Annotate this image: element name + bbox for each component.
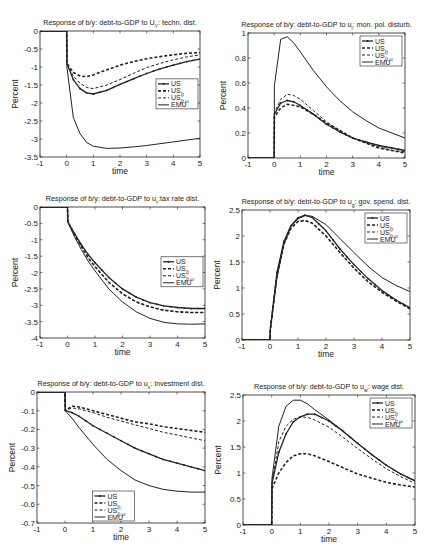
series-marker <box>381 290 383 292</box>
y-axis-label: Percent <box>218 80 228 110</box>
y-tick-label: -3 <box>31 135 39 144</box>
series-marker <box>108 277 110 279</box>
series-marker <box>192 59 194 61</box>
x-tick-label: 1 <box>296 342 301 351</box>
y-tick-label: 0 <box>237 521 242 530</box>
series-marker <box>332 239 334 241</box>
y-tick-label: -3.5 <box>24 318 38 327</box>
legend-label: EMU <box>375 59 391 66</box>
series-marker <box>339 248 341 250</box>
y-tick-label: 2 <box>236 232 241 241</box>
y-axis-label: Percent <box>10 257 20 287</box>
series-marker <box>163 305 165 307</box>
series-line-us <box>37 392 205 471</box>
series-marker <box>190 308 192 310</box>
x-axis-label: time <box>112 166 128 176</box>
x-tick-label: 1 <box>91 525 96 534</box>
series-marker <box>106 432 108 434</box>
legend: USUSξtUSξt,ωEMU <box>161 257 203 287</box>
series-marker <box>78 415 80 417</box>
x-tick-label: 5 <box>413 527 418 536</box>
y-axis-label: Percent <box>213 445 223 475</box>
legend-label: US <box>375 38 385 45</box>
y-axis-label: Percent <box>7 442 17 472</box>
chart-panel-govspend: Response of b/y: debt-to-GDP to ug: gov.… <box>212 197 413 359</box>
y-tick-label: 2 <box>237 417 242 426</box>
series-marker <box>135 296 137 298</box>
y-tick-label: 0 <box>31 388 36 397</box>
y-tick-label: 1 <box>237 469 242 478</box>
series-marker <box>360 271 362 273</box>
chart-title: Response of b/y: debt-to-GDP to ug: gov.… <box>242 197 411 208</box>
series-marker <box>99 429 101 431</box>
figure-grid: Response of b/y: debt-to-GDP to UY: tech… <box>0 0 435 557</box>
series-line-ust <box>37 392 205 432</box>
x-tick-label: 1 <box>93 340 98 349</box>
series-marker <box>285 433 287 435</box>
series-marker <box>149 302 151 304</box>
series-marker <box>159 68 161 70</box>
y-tick-label: -0.3 <box>21 444 35 453</box>
y-tick-label: -0.7 <box>21 519 35 528</box>
x-tick-label: 3 <box>147 525 152 534</box>
series-marker <box>313 113 315 115</box>
legend-label: EMU <box>171 101 187 108</box>
y-tick-label: 0.4 <box>235 104 247 113</box>
series-marker <box>197 468 199 470</box>
legend-label: US <box>380 215 390 222</box>
x-tick-label: 4 <box>377 160 382 169</box>
series-marker <box>92 93 94 95</box>
series-marker <box>155 456 157 458</box>
y-tick-label: -2.5 <box>24 117 38 126</box>
y-tick-label: 0.8 <box>235 54 247 63</box>
x-tick-label: 4 <box>380 342 385 351</box>
x-tick-label: 3 <box>144 159 149 168</box>
series-marker <box>391 147 393 149</box>
series-marker <box>170 306 172 308</box>
legend-label: US <box>176 258 186 265</box>
chart-panel-investment: Response of b/y: debt-to-GDP to ux: Inve… <box>7 379 208 542</box>
legend-label: EMU <box>380 236 396 243</box>
series-marker <box>112 86 114 88</box>
series-marker <box>293 101 295 103</box>
series-line-ust <box>248 104 405 158</box>
y-tick-label: 0.6 <box>235 79 247 88</box>
x-tick-label: 0 <box>65 340 70 349</box>
y-tick-label: -3 <box>31 301 39 310</box>
y-tick-label: 0.5 <box>229 310 241 319</box>
series-marker <box>122 288 124 290</box>
y-tick-label: 0 <box>236 336 241 345</box>
series-marker <box>72 79 74 81</box>
x-tick-label: 4 <box>175 340 180 349</box>
series-marker <box>132 78 134 80</box>
series-group <box>36 391 206 492</box>
x-tick-label: 0 <box>64 159 69 168</box>
chart-title: Response of b/y: debt-to-GDP to uw: wage… <box>254 382 404 393</box>
series-marker <box>119 83 121 85</box>
y-tick-label: 1 <box>242 29 247 38</box>
y-tick-label: -0.2 <box>21 425 35 434</box>
series-marker <box>384 146 386 148</box>
legend: USUSξtUSξt,ωEMU <box>156 79 198 109</box>
legend-label: EMU <box>385 421 401 428</box>
series-marker <box>146 73 148 75</box>
x-tick-label: 5 <box>403 160 408 169</box>
x-tick-label: 0 <box>268 342 273 351</box>
series-marker <box>142 299 144 301</box>
y-tick-label: 0 <box>34 203 39 212</box>
series-marker <box>71 412 73 414</box>
series-marker <box>166 66 168 68</box>
series-marker <box>183 307 185 309</box>
x-tick-label: 3 <box>352 342 357 351</box>
series-marker <box>87 254 89 256</box>
y-tick-label: 1 <box>236 284 241 293</box>
series-marker <box>106 90 108 92</box>
series-marker <box>99 91 101 93</box>
y-tick-label: 0.5 <box>230 495 242 504</box>
y-tick-label: 1.5 <box>229 258 241 267</box>
legend: USUSξtUSξt,ωEMU <box>365 213 407 243</box>
series-marker <box>127 444 129 446</box>
series-marker <box>169 460 171 462</box>
series-marker <box>172 64 174 66</box>
series-marker <box>139 75 141 77</box>
